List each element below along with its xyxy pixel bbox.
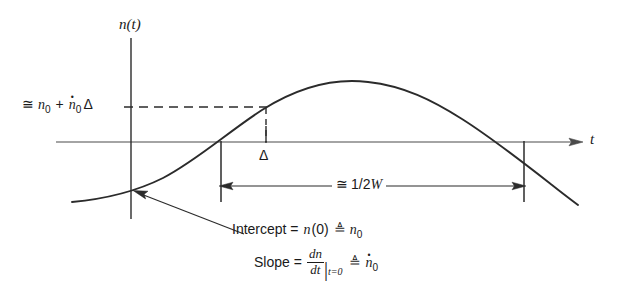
halfwidth-approx-icon: ≅ (336, 176, 348, 192)
y-axis-title-text: n(t) (119, 16, 141, 32)
ordinate-base-subscript: 0 (45, 104, 51, 115)
halfwidth-label: ≅1/2W (332, 177, 386, 192)
figure-container: n(t) t ≅n0+n•0Δ Δ ≅1/2W Intercept =n(0)≜… (0, 0, 630, 302)
slope-numerator: dn (307, 247, 324, 263)
ordinate-base-symbol: n (38, 97, 45, 112)
overdot-icon: • (367, 251, 370, 260)
plus-icon: + (56, 96, 64, 112)
intercept-annotation: Intercept =n(0)≜n0 (232, 222, 362, 240)
intercept-label-text: Intercept = (232, 221, 299, 237)
slope-derivative-fraction: dndt (307, 247, 324, 277)
overdot-icon: • (71, 93, 74, 102)
x-axis-title: t (590, 131, 594, 147)
approx-equal-icon: ≅ (22, 96, 34, 112)
level-guide-group (124, 107, 267, 143)
ordinate-rate-subscript: 0 (76, 104, 82, 115)
slope-result-subscript: 0 (372, 262, 378, 273)
delta-tick-label: Δ (259, 148, 268, 162)
ordinate-delta-symbol: Δ (83, 96, 92, 112)
intercept-result-symbol: n (350, 222, 357, 237)
slope-denominator: dt (307, 263, 324, 278)
y-axis-title: n(t) (119, 16, 141, 32)
slope-defeq-icon: ≜ (349, 254, 361, 270)
intercept-defeq-icon: ≜ (334, 221, 346, 237)
intercept-leader-line (141, 194, 244, 234)
intercept-arrowhead (133, 191, 148, 199)
ordinate-value-label: ≅n0+n•0Δ (22, 97, 93, 115)
intercept-leader-group (133, 191, 244, 235)
slope-label-text: Slope = (254, 254, 302, 270)
slope-annotation: Slope =dndt|t=0≜n•0 (254, 247, 378, 279)
intercept-result-subscript: 0 (357, 229, 363, 240)
x-axis-title-text: t (590, 131, 594, 147)
intercept-function-arg: (0) (312, 221, 329, 237)
intercept-function-symbol: n (304, 222, 311, 237)
ordinate-rate-symbol-wrap: n• (69, 97, 76, 112)
halfwidth-value: 1/2 (351, 176, 370, 192)
halfwidth-symbol: W (370, 177, 382, 192)
slope-result-symbol-wrap: n• (365, 255, 372, 270)
x-axis-group (56, 138, 583, 146)
slope-evaluation-point: t=0 (328, 266, 343, 277)
